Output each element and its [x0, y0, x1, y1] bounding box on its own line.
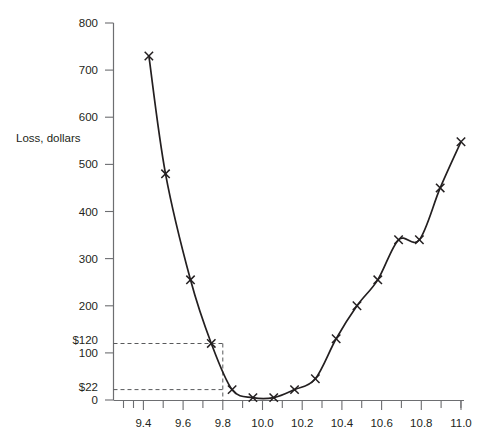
data-point-marker	[457, 138, 465, 146]
y-tick-label-200: 200	[79, 300, 98, 312]
x-tick-label-9.8: 9.8	[215, 417, 231, 429]
y-tick-400: 400	[79, 206, 114, 218]
x-tick-10.0: 10.0	[251, 401, 273, 430]
data-point-marker	[374, 276, 382, 284]
annotation-label-22: $22	[79, 381, 98, 393]
y-tick-label-600: 600	[79, 111, 98, 123]
x-tick-label-10.8: 10.8	[410, 417, 432, 429]
y-tick-0: 0	[92, 394, 114, 406]
data-point-marker	[332, 335, 340, 343]
x-tick-label-10.4: 10.4	[331, 417, 354, 429]
x-tick-label-9.6: 9.6	[175, 417, 191, 429]
annotation-label-120: $120	[72, 334, 98, 346]
y-tick-label-500: 500	[79, 158, 98, 170]
data-point-marker	[353, 302, 361, 310]
guide-lines	[114, 344, 223, 401]
data-point-marker	[415, 236, 423, 244]
loss-function-chart: Loss, dollars 800 700 600 500 400	[0, 0, 488, 441]
y-tick-label-0: 0	[92, 394, 98, 406]
y-tick-100: 100	[79, 347, 114, 359]
data-point-marker	[394, 236, 402, 244]
x-tick-11.0: 11.0	[450, 401, 472, 430]
series-line	[149, 56, 461, 399]
x-tick-10.4: 10.4	[331, 401, 354, 430]
x-tick-10.2: 10.2	[291, 401, 313, 430]
series-markers	[145, 52, 466, 402]
y-tick-800: 800	[79, 17, 114, 29]
y-axis-label: Loss, dollars	[16, 132, 81, 144]
x-tick-9.4: 9.4	[135, 401, 152, 430]
y-tick-300: 300	[79, 253, 114, 265]
y-tick-500: 500	[79, 158, 114, 170]
x-tick-9.8: 9.8	[215, 401, 231, 430]
y-tick-label-800: 800	[79, 17, 98, 29]
y-axis: 800 700 600 500 400 300	[79, 17, 114, 406]
y-tick-200: 200	[79, 300, 114, 312]
x-tick-10.6: 10.6	[370, 401, 392, 430]
data-series	[145, 52, 466, 402]
x-tick-label-11.0: 11.0	[450, 417, 472, 429]
x-tick-9.6: 9.6	[175, 401, 191, 430]
chart-container: Loss, dollars 800 700 600 500 400	[0, 0, 488, 441]
data-point-marker	[436, 184, 444, 192]
data-point-marker	[290, 385, 298, 393]
y-tick-label-100: 100	[79, 347, 98, 359]
y-tick-label-700: 700	[79, 64, 98, 76]
y-tick-label-300: 300	[79, 253, 98, 265]
data-point-marker	[228, 385, 236, 393]
x-tick-label-10.0: 10.0	[251, 417, 273, 429]
y-tick-700: 700	[79, 64, 114, 76]
x-minor-ticks	[124, 401, 461, 409]
y-tick-label-400: 400	[79, 206, 98, 218]
x-tick-label-10.2: 10.2	[291, 417, 313, 429]
x-tick-10.8: 10.8	[410, 401, 432, 430]
x-tick-label-10.6: 10.6	[370, 417, 392, 429]
x-tick-label-9.4: 9.4	[135, 417, 152, 429]
y-tick-600: 600	[79, 111, 114, 123]
x-axis: 9.4 9.6 9.8 10.0 10.2 10.4	[114, 401, 472, 430]
data-point-marker	[311, 375, 319, 383]
